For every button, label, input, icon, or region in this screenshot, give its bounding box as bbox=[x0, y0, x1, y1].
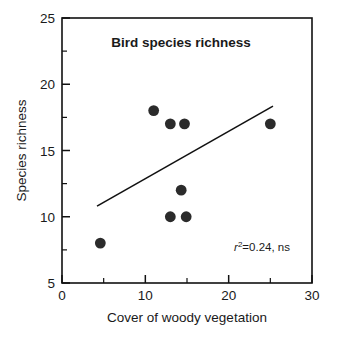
y-tick-label-10: 10 bbox=[40, 210, 55, 225]
data-points-group bbox=[95, 105, 276, 248]
data-point bbox=[165, 118, 176, 129]
y-axis-title: Species richness bbox=[14, 99, 29, 201]
plot-title: Bird species richness bbox=[111, 35, 251, 50]
data-point bbox=[181, 211, 192, 222]
y-axis-major-ticks bbox=[62, 18, 70, 283]
data-point bbox=[95, 238, 106, 249]
data-point bbox=[165, 211, 176, 222]
data-point bbox=[179, 118, 190, 129]
x-tick-label-30: 30 bbox=[304, 288, 319, 303]
r-squared-value: =0.24, ns bbox=[242, 241, 290, 253]
data-point bbox=[176, 185, 187, 196]
y-tick-label-20: 20 bbox=[40, 77, 55, 92]
y-tick-label-5: 5 bbox=[47, 276, 55, 291]
x-tick-label-20: 20 bbox=[221, 288, 236, 303]
x-axis-title: Cover of woody vegetation bbox=[107, 310, 267, 325]
x-tick-label-10: 10 bbox=[138, 288, 153, 303]
y-tick-label-25: 25 bbox=[40, 11, 55, 26]
scatter-plot-svg: 5 10 15 20 25 0 10 20 30 Cover of woody … bbox=[0, 0, 338, 339]
y-tick-label-15: 15 bbox=[40, 144, 55, 159]
data-point bbox=[148, 105, 159, 116]
data-point bbox=[265, 118, 276, 129]
x-tick-label-0: 0 bbox=[58, 288, 66, 303]
r-squared-annotation: r2=0.24, ns bbox=[234, 240, 290, 253]
chart-figure: 5 10 15 20 25 0 10 20 30 Cover of woody … bbox=[0, 0, 338, 339]
